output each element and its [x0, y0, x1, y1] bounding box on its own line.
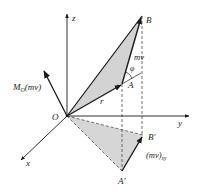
- label-mv: mv: [134, 52, 144, 62]
- momentum-moment-diagram: z y x O B A B' A' r mv φ MO(mv) (mv)xy: [0, 0, 200, 194]
- label-z: z: [71, 13, 76, 23]
- label-y: y: [177, 118, 182, 128]
- label-Aprime: A': [117, 176, 126, 186]
- label-r: r: [100, 96, 104, 106]
- point-A-dot: [117, 85, 119, 87]
- moment-vector-MO: [44, 71, 67, 116]
- triangle-OA'B'-projection: [67, 116, 143, 171]
- label-x: x: [25, 158, 30, 168]
- x-axis: [21, 116, 67, 160]
- point-O-dot: [66, 115, 69, 118]
- label-phi: φ: [130, 64, 135, 73]
- label-projected-momentum: (mv)xy: [146, 150, 167, 161]
- label-B: B: [146, 15, 152, 25]
- label-O: O: [52, 112, 59, 122]
- label-moment-MO: MO(mv): [12, 82, 41, 93]
- label-A: A: [127, 80, 134, 90]
- label-Bprime: B': [148, 132, 156, 142]
